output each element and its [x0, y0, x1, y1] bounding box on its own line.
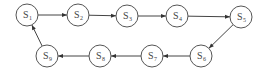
node-subscript: 3: [129, 16, 132, 22]
node-label: S: [237, 11, 243, 22]
node-label: S: [23, 9, 29, 20]
node-subscript: 8: [102, 56, 105, 62]
node-s8: S8: [89, 45, 111, 67]
node-subscript: 7: [154, 56, 157, 62]
node-subscript: 4: [179, 16, 182, 22]
node-s3: S3: [116, 5, 138, 27]
edge-s4-to-s5: [188, 16, 230, 17]
node-label: S: [173, 10, 179, 21]
state-cycle-diagram: S1S2S3S4S5S6S7S8S9: [0, 0, 255, 76]
node-label: S: [197, 50, 203, 61]
node-subscript: 1: [29, 15, 32, 21]
node-label: S: [74, 9, 80, 20]
node-subscript: 5: [243, 17, 246, 23]
node-subscript: 9: [49, 56, 52, 62]
node-s7: S7: [141, 45, 163, 67]
edge-s9-to-s1: [32, 25, 42, 46]
edge-s5-to-s6: [209, 25, 233, 49]
node-subscript: 6: [203, 56, 206, 62]
node-label: S: [148, 50, 154, 61]
node-s6: S6: [190, 45, 212, 67]
node-s2: S2: [67, 4, 89, 26]
node-s4: S4: [166, 5, 188, 27]
node-subscript: 2: [80, 15, 83, 21]
node-s9: S9: [36, 45, 58, 67]
node-s1: S1: [16, 4, 38, 26]
node-label: S: [96, 50, 102, 61]
node-label: S: [43, 50, 49, 61]
node-s5: S5: [230, 6, 252, 28]
nodes-layer: S1S2S3S4S5S6S7S8S9: [16, 4, 252, 67]
edge-s2-to-s3: [89, 15, 116, 16]
node-label: S: [123, 10, 129, 21]
